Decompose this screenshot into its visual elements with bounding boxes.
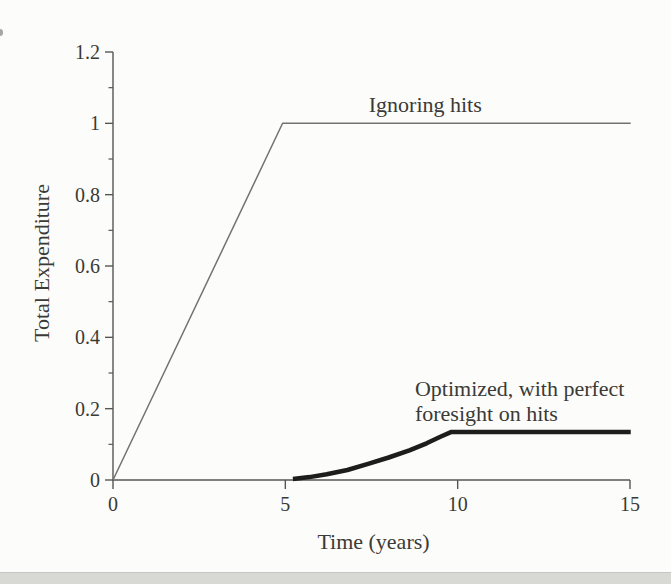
x-tick-label: 0 <box>108 493 118 515</box>
y-tick-label: 0 <box>90 469 100 491</box>
x-tick-label: 10 <box>448 493 468 515</box>
y-tick-label: 0.2 <box>75 398 100 420</box>
page-bottom-edge <box>0 572 671 584</box>
x-tick-label: 5 <box>280 493 290 515</box>
y-tick-label: 1.2 <box>75 41 100 63</box>
series-line-optimized <box>293 432 631 479</box>
line-chart: 05101500.20.40.60.811.2Ignoring hitsOpti… <box>0 0 671 584</box>
series-line-ignoring-hits <box>113 123 631 480</box>
y-tick-label: 1 <box>90 112 100 134</box>
scanned-book-figure: 05101500.20.40.60.811.2Ignoring hitsOpti… <box>0 0 671 584</box>
annotation-optimized-line1: Optimized, with perfect <box>415 376 625 401</box>
y-tick-label: 0.6 <box>75 255 100 277</box>
annotation-ignoring-hits: Ignoring hits <box>369 92 482 117</box>
y-tick-label: 0.4 <box>75 326 100 348</box>
y-tick-label: 0.8 <box>75 184 100 206</box>
x-tick-label: 15 <box>620 493 640 515</box>
annotation-optimized-line2: foresight on hits <box>415 401 558 426</box>
x-axis-title: Time (years) <box>317 529 429 554</box>
y-axis-title: Total Expenditure <box>29 184 54 342</box>
